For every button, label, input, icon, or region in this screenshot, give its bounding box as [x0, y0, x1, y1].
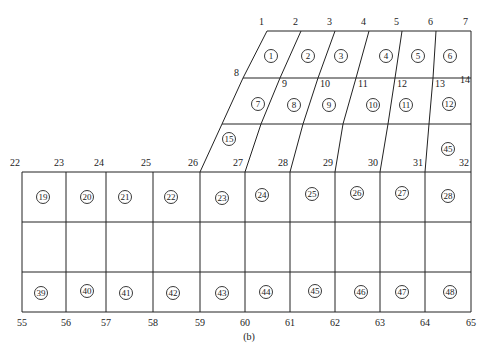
element-number: 47 — [398, 287, 408, 297]
element-number: 5 — [416, 51, 421, 61]
mesh-line-slant — [303, 78, 318, 124]
element-number: 40 — [83, 286, 93, 296]
mesh-line-slant — [356, 31, 369, 78]
element-marker: 10 — [367, 99, 380, 112]
node-label-9: 9 — [282, 78, 287, 89]
node-label-64: 64 — [420, 317, 430, 328]
element-number: 46 — [357, 287, 367, 297]
element-number: 20 — [83, 192, 93, 202]
element-marker: 41 — [120, 287, 133, 300]
node-label-58: 58 — [148, 317, 158, 328]
element-number: 1 — [269, 51, 274, 61]
element-marker: 43 — [216, 287, 229, 300]
element-marker: 44 — [260, 286, 273, 299]
node-label-30: 30 — [368, 157, 378, 168]
mesh-line-slant — [318, 31, 335, 78]
node-label-56: 56 — [61, 317, 71, 328]
mesh-line-slant — [200, 124, 222, 172]
node-label-60: 60 — [240, 317, 250, 328]
node-label-8: 8 — [234, 67, 239, 78]
element-number: 22 — [167, 192, 176, 202]
node-label-27: 27 — [233, 157, 243, 168]
element-marker: 7 — [252, 98, 265, 111]
node-label-11: 11 — [358, 78, 368, 89]
element-marker: 6 — [444, 50, 457, 63]
element-marker: 26 — [351, 187, 364, 200]
element-marker: 47 — [396, 286, 409, 299]
node-label-62: 62 — [330, 317, 340, 328]
element-number: 48 — [446, 287, 456, 297]
node-label-14: 14 — [460, 74, 470, 85]
element-marker: 48 — [444, 286, 457, 299]
node-label-2: 2 — [293, 16, 298, 27]
node-label-29: 29 — [323, 157, 333, 168]
mesh-line-slant — [245, 124, 261, 172]
element-marker: 23 — [216, 192, 229, 205]
node-label-23: 23 — [54, 157, 64, 168]
element-marker: 2 — [302, 50, 315, 63]
element-number: 7 — [256, 99, 261, 109]
mesh-line-slant — [243, 31, 267, 78]
element-number: 24 — [258, 190, 268, 200]
finite-element-mesh: 1234567891011121314222324252627282930313… — [0, 0, 489, 357]
element-marker: 3 — [335, 50, 348, 63]
mesh-line-slant — [290, 124, 303, 172]
mesh-line-slant — [343, 78, 356, 124]
element-number: 10 — [369, 100, 379, 110]
element-number: 43 — [218, 288, 228, 298]
element-number: 11 — [402, 100, 411, 110]
element-marker: 39 — [35, 287, 48, 300]
element-number: 45 — [444, 144, 454, 154]
node-label-12: 12 — [397, 78, 407, 89]
element-marker: 8 — [288, 99, 301, 112]
element-number: 41 — [122, 288, 131, 298]
element-number: 39 — [37, 288, 47, 298]
element-marker: 20 — [81, 191, 94, 204]
element-number: 12 — [445, 99, 454, 109]
element-marker: 42 — [167, 287, 180, 300]
node-label-24: 24 — [94, 157, 104, 168]
element-number: 21 — [121, 192, 130, 202]
element-marker: 11 — [400, 99, 413, 112]
node-label-3: 3 — [327, 16, 332, 27]
node-label-57: 57 — [101, 317, 111, 328]
element-marker: 45 — [442, 143, 455, 156]
element-number: 25 — [308, 189, 318, 199]
element-marker: 9 — [323, 99, 336, 112]
element-marker: 25 — [306, 188, 319, 201]
node-label-26: 26 — [188, 157, 198, 168]
node-label-13: 13 — [435, 78, 445, 89]
element-marker: 12 — [443, 98, 456, 111]
element-number: 28 — [444, 191, 454, 201]
mesh-line-slant — [433, 31, 436, 78]
node-label-59: 59 — [195, 317, 205, 328]
mesh-line-slant — [425, 124, 429, 172]
node-label-61: 61 — [285, 317, 295, 328]
element-number: 44 — [262, 287, 272, 297]
element-number: 19 — [39, 192, 49, 202]
mesh-line-slant — [335, 124, 343, 172]
mesh-line-slant — [429, 78, 433, 124]
element-number: 45 — [311, 286, 321, 296]
node-label-22: 22 — [10, 157, 20, 168]
node-label-31: 31 — [413, 157, 423, 168]
node-label-4: 4 — [361, 16, 366, 27]
element-number: 27 — [398, 188, 408, 198]
element-number: 2 — [306, 51, 311, 61]
node-label-6: 6 — [428, 16, 433, 27]
figure-caption: (b) — [243, 331, 255, 343]
mesh-line-slant — [395, 31, 402, 78]
element-marker: 24 — [256, 189, 269, 202]
element-number: 6 — [448, 51, 453, 61]
element-marker: 15 — [223, 133, 236, 146]
element-marker: 4 — [380, 50, 393, 63]
element-marker: 5 — [412, 50, 425, 63]
element-number: 15 — [225, 134, 235, 144]
node-label-63: 63 — [375, 317, 385, 328]
mesh-line-slant — [388, 78, 395, 124]
mesh-line-slant — [280, 31, 301, 78]
element-number: 26 — [353, 188, 363, 198]
element-marker: 40 — [81, 285, 94, 298]
element-number: 4 — [384, 51, 389, 61]
node-label-10: 10 — [320, 78, 330, 89]
